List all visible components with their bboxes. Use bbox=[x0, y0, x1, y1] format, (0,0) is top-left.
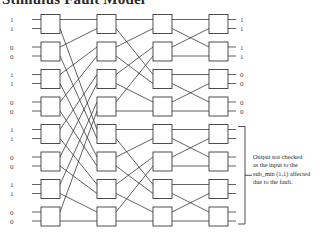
input-bit-label: 0 bbox=[10, 44, 14, 52]
input-bit-label: 1 bbox=[10, 71, 14, 79]
switch-box bbox=[153, 70, 172, 89]
annotation-line: sub_min (1,1) affected bbox=[253, 170, 331, 178]
switch-box bbox=[153, 207, 172, 226]
switch-box bbox=[97, 125, 116, 144]
input-bit-label: 1 bbox=[10, 25, 14, 33]
switch-box bbox=[97, 15, 116, 34]
switch-box bbox=[209, 125, 228, 144]
switch-box bbox=[41, 42, 60, 61]
switch-box bbox=[41, 15, 60, 34]
input-bit-label: 1 bbox=[10, 16, 14, 24]
switch-box bbox=[153, 125, 172, 144]
switch-box bbox=[97, 180, 116, 199]
fault-annotation: Output not checked as the input to the s… bbox=[253, 153, 331, 186]
switch-box bbox=[97, 97, 116, 116]
switch-box bbox=[153, 180, 172, 199]
switch-box bbox=[209, 180, 228, 199]
input-bit-label: 1 bbox=[10, 135, 14, 143]
switch-box bbox=[97, 207, 116, 226]
input-bit-label: 0 bbox=[10, 99, 14, 107]
output-bit-label: 1 bbox=[240, 53, 244, 61]
switch-box bbox=[41, 207, 60, 226]
input-bit-label: 1 bbox=[10, 190, 14, 198]
output-bit-label: 1 bbox=[240, 16, 244, 24]
switch-box bbox=[209, 152, 228, 171]
output-bit-label: 0 bbox=[240, 80, 244, 88]
input-bit-label: 1 bbox=[10, 126, 14, 134]
input-bit-label: 1 bbox=[10, 80, 14, 88]
switch-box bbox=[41, 180, 60, 199]
annotation-line: as the input to the bbox=[253, 161, 331, 169]
switch-boxes bbox=[41, 15, 228, 227]
output-bit-label: 1 bbox=[240, 25, 244, 33]
input-bit-label: 0 bbox=[10, 163, 14, 171]
input-bit-label: 0 bbox=[10, 108, 14, 116]
switch-box bbox=[153, 97, 172, 116]
input-bit-label: 1 bbox=[10, 181, 14, 189]
input-bit-label: 0 bbox=[10, 53, 14, 61]
switch-box bbox=[153, 152, 172, 171]
unchecked-outputs-bracket bbox=[238, 127, 252, 225]
output-bit-label: 1 bbox=[240, 44, 244, 52]
switch-box bbox=[153, 15, 172, 34]
output-bit-label: 0 bbox=[240, 108, 244, 116]
input-bit-label: 0 bbox=[10, 154, 14, 162]
output-bit-label: 0 bbox=[240, 71, 244, 79]
switch-box bbox=[209, 70, 228, 89]
input-bit-label: 0 bbox=[10, 209, 14, 217]
switch-box bbox=[209, 15, 228, 34]
input-bit-label: 0 bbox=[10, 218, 14, 226]
switch-box bbox=[209, 207, 228, 226]
switch-box bbox=[41, 70, 60, 89]
switch-box bbox=[153, 42, 172, 61]
switch-box bbox=[209, 97, 228, 116]
switch-box bbox=[97, 42, 116, 61]
switch-box bbox=[41, 152, 60, 171]
output-bit-label: 0 bbox=[240, 99, 244, 107]
switch-box bbox=[97, 70, 116, 89]
switch-box bbox=[209, 42, 228, 61]
interconnect-wires bbox=[32, 20, 236, 222]
annotation-line: due to the fault. bbox=[253, 178, 331, 186]
annotation-line: Output not checked bbox=[253, 153, 331, 161]
switch-box bbox=[41, 97, 60, 116]
switch-box bbox=[41, 125, 60, 144]
shuffle-exchange-network: 110011001100110011110000 bbox=[0, 0, 331, 240]
switch-box bbox=[97, 152, 116, 171]
